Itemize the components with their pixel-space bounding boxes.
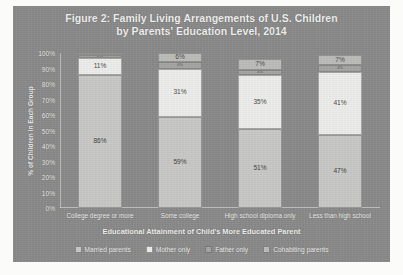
- bar-segment-label: 86%: [93, 138, 106, 145]
- legend-item[interactable]: Married parents: [75, 246, 131, 253]
- bar-segment-label: 2%: [97, 55, 103, 58]
- bar-segment-label: 41%: [333, 100, 346, 107]
- y-axis-tick-label: 20%: [42, 174, 55, 181]
- legend-item[interactable]: Father only: [205, 246, 248, 253]
- bar-group[interactable]: 86%11%2%1%College degree or more: [78, 53, 122, 208]
- bar-segment-label: 35%: [253, 99, 266, 106]
- legend-swatch-icon: [146, 246, 153, 253]
- bar-segment-label: 59%: [173, 159, 186, 166]
- bar-segment[interactable]: 51%: [238, 129, 282, 208]
- bar-segment-label: 4%: [337, 66, 343, 70]
- y-axis-line: [60, 53, 61, 208]
- legend-item[interactable]: Cohabiting parents: [263, 246, 328, 253]
- x-axis-category-label: College degree or more: [54, 212, 146, 220]
- y-axis-tick-label: 10%: [42, 189, 55, 196]
- chart-title: Figure 2: Family Living Arrangements of …: [13, 12, 390, 38]
- x-axis-category-label: High school diploma only: [214, 212, 306, 220]
- bar-segment-label: 3%: [257, 70, 263, 74]
- y-axis-tick-label: 60%: [42, 112, 55, 119]
- bar-segment[interactable]: 4%: [318, 65, 362, 71]
- x-axis-title: Educational Attainment of Child's More E…: [13, 227, 390, 236]
- bar-segment[interactable]: 3%: [238, 70, 282, 75]
- legend-item[interactable]: Mother only: [146, 246, 190, 253]
- bar-segment-label: 7%: [255, 61, 265, 68]
- bar-segment[interactable]: 6%: [158, 53, 202, 62]
- y-axis-tick-label: 90%: [42, 65, 55, 72]
- y-axis-tick-label: 30%: [42, 158, 55, 165]
- y-axis-tick-label: 0%: [45, 205, 55, 212]
- legend-swatch-icon: [205, 246, 212, 253]
- bar-segment-label: 47%: [333, 168, 346, 175]
- y-axis-tick-label: 100%: [38, 50, 55, 57]
- legend-label: Cohabiting parents: [273, 246, 328, 253]
- bar-segment-label: 11%: [94, 63, 107, 70]
- bar-segment[interactable]: 47%: [318, 135, 362, 208]
- chart-legend: Married parentsMother onlyFather onlyCoh…: [13, 246, 390, 253]
- x-axis-category-label: Less than high school: [294, 212, 386, 220]
- x-axis-category-label: Some college: [134, 212, 226, 220]
- y-axis-tick-label: 80%: [42, 81, 55, 88]
- scanned-page: Figure 2: Family Living Arrangements of …: [0, 0, 403, 275]
- y-axis-tick-label: 50%: [42, 127, 55, 134]
- legend-label: Mother only: [156, 246, 190, 253]
- bar-segment-label: 51%: [253, 165, 266, 172]
- bar-segment[interactable]: 7%: [238, 59, 282, 70]
- bar-segment[interactable]: 7%: [318, 55, 362, 66]
- bar-segment-label: 4%: [177, 63, 183, 67]
- bar-segment[interactable]: 59%: [158, 117, 202, 208]
- y-axis-title: % of Children in Each Group: [27, 86, 34, 175]
- bar-segment[interactable]: 1%: [78, 53, 122, 55]
- y-axis-tick-label: 40%: [42, 143, 55, 150]
- bar-segment[interactable]: 4%: [158, 62, 202, 68]
- bar-segment[interactable]: 86%: [78, 75, 122, 208]
- bar-segment[interactable]: 41%: [318, 72, 362, 136]
- y-axis-tick-label: 70%: [42, 96, 55, 103]
- legend-swatch-icon: [75, 246, 82, 253]
- legend-label: Married parents: [85, 246, 131, 253]
- bar-segment-label: 7%: [335, 57, 345, 64]
- bar-segment-label: 31%: [173, 89, 186, 96]
- bar-segment[interactable]: 35%: [238, 75, 282, 129]
- legend-label: Father only: [215, 246, 248, 253]
- bar-segment-label: 1%: [97, 53, 103, 55]
- chart-title-line-1: Figure 2: Family Living Arrangements of …: [13, 12, 390, 25]
- bar-segment[interactable]: 2%: [78, 55, 122, 58]
- bar-group[interactable]: 51%35%3%7%High school diploma only: [238, 53, 282, 208]
- bar-segment[interactable]: 31%: [158, 69, 202, 117]
- legend-swatch-icon: [263, 246, 270, 253]
- plot-area: 0%10%20%30%40%50%60%70%80%90%100% 86%11%…: [60, 53, 380, 208]
- bar-group[interactable]: 59%31%4%6%Some college: [158, 53, 202, 208]
- bar-segment-label: 6%: [175, 54, 185, 61]
- chart-panel: Figure 2: Family Living Arrangements of …: [13, 6, 390, 262]
- bar-segment[interactable]: 11%: [78, 58, 122, 75]
- bar-group[interactable]: 47%41%4%7%Less than high school: [318, 53, 362, 208]
- chart-title-line-2: by Parents' Education Level, 2014: [13, 25, 390, 38]
